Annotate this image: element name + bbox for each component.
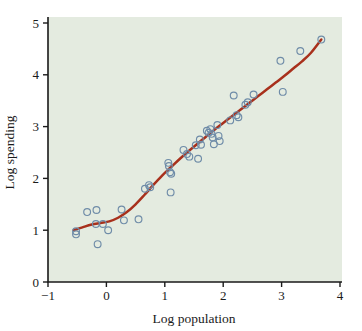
x-tick-label: 0 — [103, 288, 110, 303]
x-tick-label: 1 — [162, 288, 169, 303]
y-tick-label: 2 — [33, 171, 40, 186]
y-axis-ticks: 012345 — [33, 16, 49, 290]
x-axis-title: Log population — [153, 311, 236, 326]
y-tick-label: 0 — [33, 275, 40, 290]
y-tick-label: 5 — [33, 16, 40, 31]
x-tick-label: 4 — [337, 288, 344, 303]
y-axis-title: Log spending — [2, 115, 17, 189]
x-tick-label: 2 — [220, 288, 227, 303]
y-tick-label: 3 — [33, 119, 40, 134]
chart-figure: −101234 012345 Log population Log spendi… — [0, 0, 362, 331]
x-tick-label: 3 — [278, 288, 285, 303]
scatter-plot: −101234 012345 Log population Log spendi… — [0, 0, 362, 331]
y-tick-label: 4 — [33, 67, 40, 82]
y-tick-label: 1 — [33, 223, 40, 238]
x-axis-ticks: −101234 — [41, 282, 344, 303]
plot-background — [48, 17, 342, 282]
x-tick-label: −1 — [41, 288, 55, 303]
